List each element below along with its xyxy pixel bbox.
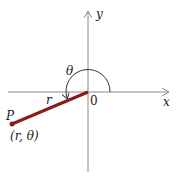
polar-diagram: y x 0 θ r P (r, θ)	[0, 0, 183, 182]
radius-label: r	[46, 93, 53, 107]
angle-label: θ	[66, 64, 74, 78]
y-axis-label: y	[95, 7, 103, 21]
point-label: P	[5, 109, 15, 123]
x-axis-label: x	[163, 95, 170, 109]
point-coords: (r, θ)	[10, 129, 39, 143]
origin-label: 0	[90, 94, 98, 108]
